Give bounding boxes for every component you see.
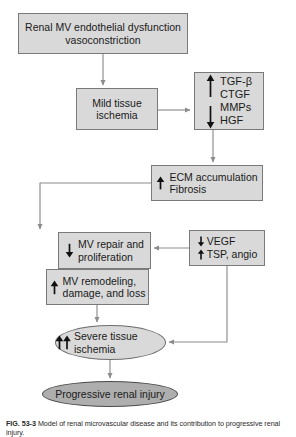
node-severe-ischemia-label: Severe tissue ischemia	[74, 330, 165, 355]
node-mv-repair-label: MV repair and proliferation	[78, 238, 144, 263]
node-mild-tissue-ischemia: Mild tissue ischemia	[76, 88, 158, 130]
node-mv-repair-proliferation: MV repair and proliferation	[58, 232, 151, 269]
edge-vegf-to-severe	[169, 266, 227, 342]
node-growth-factor-panel: TGF-β CTGF MMPs HGF	[194, 72, 264, 130]
double-up-arrow-icon	[56, 335, 71, 350]
growth-factor-down-group-label: MMPs HGF	[220, 101, 251, 127]
tsp-angio-label: TSP, angio	[207, 248, 258, 261]
node-endothelial-dysfunction: Renal MV endothelial dysfunction vasocon…	[18, 13, 188, 54]
node-mild-tissue-ischemia-label: Mild tissue ischemia	[92, 97, 142, 122]
node-vegf-tsp-angio: VEGF TSP, angio	[189, 230, 265, 266]
node-mv-remodeling-label: MV remodeling, damage, and loss	[63, 275, 146, 300]
down-arrow-icon	[65, 243, 74, 258]
node-progressive-renal-injury: Progressive renal injury	[42, 381, 178, 407]
up-arrow-icon	[50, 280, 59, 295]
edge-ecm-to-repair	[40, 183, 151, 229]
growth-factor-arrow-column	[206, 74, 215, 129]
up-arrow-icon	[206, 74, 215, 98]
growth-factor-up-group-label: TGF-β CTGF	[220, 75, 252, 101]
node-mv-remodeling-damage-loss: MV remodeling, damage, and loss	[46, 269, 149, 305]
node-severe-tissue-ischemia: Severe tissue ischemia	[55, 325, 166, 360]
node-ecm-accumulation-fibrosis: ECM accumulation Fibrosis	[151, 165, 263, 201]
node-endothelial-dysfunction-label: Renal MV endothelial dysfunction vasocon…	[25, 21, 181, 46]
figure-caption-text: Model of renal microvascular disease and…	[6, 419, 280, 437]
down-arrow-icon	[197, 236, 205, 247]
down-arrow-icon	[206, 105, 215, 129]
figure-caption: FIG. 53-3 Model of renal microvascular d…	[6, 419, 292, 437]
up-arrow-icon	[197, 249, 205, 260]
node-progressive-renal-injury-label: Progressive renal injury	[55, 388, 165, 400]
figure-number-label: FIG. 53-3	[6, 419, 36, 428]
up-arrow-icon	[156, 176, 165, 190]
vegf-label: VEGF	[207, 235, 236, 248]
node-ecm-accumulation-label: ECM accumulation Fibrosis	[169, 171, 257, 196]
